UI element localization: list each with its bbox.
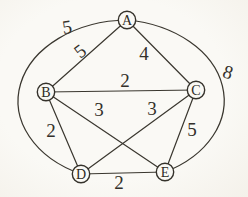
nodes-layer: ABCDE — [37, 11, 204, 182]
edge-weight-A-E: 8 — [220, 61, 236, 84]
edge-weight-A-C: 4 — [139, 43, 149, 64]
graph-canvas: ABCDE 5458223352 — [0, 0, 248, 197]
edge-weight-A-D: 5 — [61, 16, 73, 38]
edge-weight-D-E: 2 — [114, 172, 124, 193]
node-C-label: C — [191, 83, 200, 98]
graph-figure: ABCDE 5458223352 — [0, 0, 248, 197]
node-E-label: E — [161, 165, 170, 180]
edge-weight-B-D: 2 — [46, 120, 56, 141]
edge-weight-A-B: 5 — [70, 40, 90, 62]
node-A-label: A — [122, 13, 133, 28]
edge-weight-B-E: 3 — [94, 99, 104, 120]
weights-layer: 5458223352 — [46, 16, 236, 193]
node-B-label: B — [41, 85, 50, 100]
edge-A-C — [127, 20, 196, 90]
edge-weight-C-D: 3 — [147, 98, 157, 119]
edge-weight-C-E: 5 — [187, 119, 197, 140]
edge-weight-B-C: 2 — [120, 70, 130, 91]
node-D-label: D — [76, 167, 86, 182]
